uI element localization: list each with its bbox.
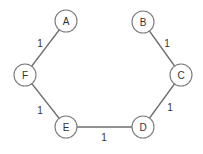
node-b: B bbox=[132, 11, 154, 33]
node-f: F bbox=[14, 64, 36, 86]
weight-a-f: 1 bbox=[37, 38, 43, 49]
node-c-label: C bbox=[177, 70, 184, 81]
weight-c-d: 1 bbox=[167, 102, 173, 113]
weight-e-d: 1 bbox=[101, 132, 107, 143]
edges bbox=[25, 21, 181, 127]
node-f-label: F bbox=[22, 70, 28, 81]
weight-f-e: 1 bbox=[37, 105, 43, 116]
node-e: E bbox=[55, 116, 77, 138]
node-b-label: B bbox=[140, 17, 147, 28]
node-a-label: A bbox=[63, 16, 70, 27]
nodes: A B C D E F bbox=[14, 10, 192, 138]
node-d-label: D bbox=[139, 122, 146, 133]
weight-b-c: 1 bbox=[164, 38, 170, 49]
node-d: D bbox=[132, 116, 154, 138]
node-a: A bbox=[55, 10, 77, 32]
graph-diagram: 1 1 1 1 1 A B C D E F bbox=[0, 0, 203, 154]
node-c: C bbox=[170, 64, 192, 86]
node-e-label: E bbox=[63, 122, 70, 133]
